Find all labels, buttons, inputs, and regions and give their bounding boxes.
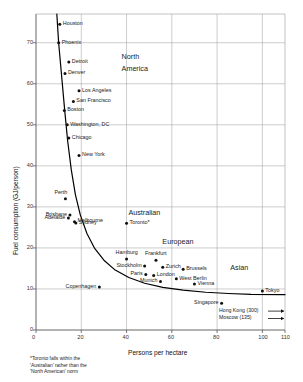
point-label: Copenhagen xyxy=(0,284,96,289)
y-tick-label: 60 xyxy=(23,81,33,87)
offscale-annotation: Moscow (135) xyxy=(219,315,252,320)
point-label: Zurich xyxy=(166,264,181,269)
y-tick-label: 30 xyxy=(23,204,33,210)
point-label: Stockholm xyxy=(0,263,142,268)
point-label: Vienna xyxy=(197,281,214,286)
footnote: *Toronto falls within the'Australian' ra… xyxy=(30,356,87,376)
chart-canvas xyxy=(0,0,303,382)
offscale-arrows xyxy=(268,309,284,320)
x-tick-label: 80 xyxy=(213,335,219,341)
point-label: Frankfurt xyxy=(145,251,167,256)
point-label: Tokyo xyxy=(265,288,279,293)
y-tick-label: 40 xyxy=(23,163,33,169)
x-tick-label: 20 xyxy=(77,335,83,341)
group-label: America xyxy=(122,65,148,72)
point-label: Phoenix xyxy=(62,40,81,45)
fuel-consumption-density-chart: 020406080100110 010203040506070 HoustonP… xyxy=(0,0,303,382)
footnote-line: *Toronto falls within the xyxy=(30,356,87,363)
x-tick-label: 110 xyxy=(281,335,290,341)
x-axis-title: Persons per hectare xyxy=(128,350,187,357)
point-label: Adelaide xyxy=(0,215,65,220)
offscale-annotation: Hong Kong (300) xyxy=(219,308,259,313)
point-label: Perth xyxy=(54,190,67,195)
group-label: Asian xyxy=(230,264,248,271)
point-label: Detroit xyxy=(72,59,88,64)
y-axis-title: Fuel consumption (GJ/person) xyxy=(12,166,19,255)
point-label: Paris xyxy=(0,271,143,276)
tick-marks xyxy=(33,43,285,333)
y-tick-label: 50 xyxy=(23,122,33,128)
point-label: Washington, DC xyxy=(70,122,109,127)
point-label: San Francisco xyxy=(76,98,110,103)
point-label: Los Angeles xyxy=(82,88,111,93)
x-tick-label: 60 xyxy=(168,335,174,341)
x-tick-label: 40 xyxy=(123,335,129,341)
y-tick-label: 70 xyxy=(23,40,33,46)
x-tick-label: 100 xyxy=(258,335,267,341)
footnote-line: 'North American' norm xyxy=(30,369,87,376)
point-label: Chicago xyxy=(72,135,92,140)
point-label: Sydney xyxy=(79,220,97,225)
point-label: London xyxy=(157,272,175,277)
point-label: Denver xyxy=(68,70,85,75)
point-label: Brussels xyxy=(186,266,207,271)
y-tick-label: 0 xyxy=(23,327,33,333)
group-label: North xyxy=(122,53,140,60)
point-label: Hamburg xyxy=(116,250,138,255)
point-label: New York xyxy=(82,152,105,157)
x-tick-label: 0 xyxy=(32,335,35,341)
group-label: Australian xyxy=(128,209,160,216)
point-label: Singapore xyxy=(0,300,219,305)
point-label: Houston xyxy=(63,21,83,26)
y-tick-label: 20 xyxy=(23,245,33,251)
point-label: Toronto* xyxy=(130,220,150,225)
footnote-line: 'Australian' rather than the xyxy=(30,363,87,370)
point-label: Boston xyxy=(67,107,84,112)
group-label: European xyxy=(162,238,193,245)
